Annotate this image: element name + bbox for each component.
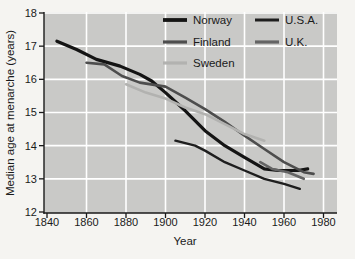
- y-tick-label: 17: [25, 40, 37, 52]
- x-tick-label: 1920: [193, 216, 217, 228]
- x-tick-label: 1900: [153, 216, 177, 228]
- legend-label-finland: Finland: [193, 36, 231, 48]
- x-tick-label: 1940: [232, 216, 256, 228]
- x-tick-label: 1860: [74, 216, 98, 228]
- y-tick-label: 15: [25, 106, 37, 118]
- legend-label-norway: Norway: [193, 14, 232, 26]
- y-axis-title: Median age at menarche (years): [4, 30, 16, 196]
- x-axis-title: Year: [173, 235, 196, 247]
- y-tick-label: 16: [25, 73, 37, 85]
- menarche-trend-figure: 1213141516171818401860188019001920194019…: [0, 0, 355, 259]
- x-tick-label: 1880: [114, 216, 138, 228]
- x-tick-label: 1960: [272, 216, 296, 228]
- chart-canvas: 1213141516171818401860188019001920194019…: [0, 0, 355, 259]
- y-tick-label: 14: [25, 140, 37, 152]
- legend-label-sweden: Sweden: [193, 57, 235, 69]
- legend-label-uk: U.K.: [285, 36, 307, 48]
- x-tick-label: 1980: [311, 216, 335, 228]
- legend-label-usa: U.S.A.: [285, 14, 318, 26]
- y-tick-label: 18: [25, 7, 37, 19]
- y-tick-label: 13: [25, 173, 37, 185]
- x-tick-label: 1840: [35, 216, 59, 228]
